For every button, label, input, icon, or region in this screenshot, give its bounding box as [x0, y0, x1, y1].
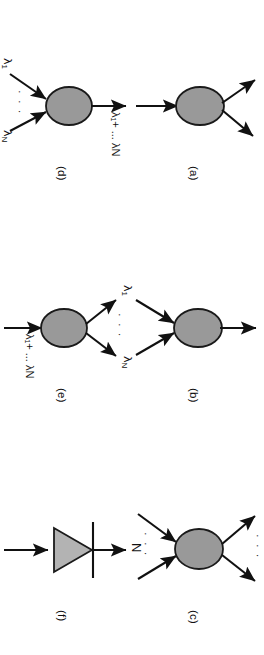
panel-d-input-label-first: λ1	[0, 58, 14, 69]
figure-canvas: (a) (b)	[0, 0, 264, 655]
panel-f-caption: (f)	[56, 610, 68, 621]
panel-c-blob	[175, 529, 223, 569]
panel-a-output-line-2	[222, 110, 253, 136]
panel-f-triangle	[54, 528, 92, 572]
panel-a-output-line-1	[222, 80, 255, 103]
panel-e-caption: (e)	[56, 388, 68, 403]
panel-grid: (a) (b)	[0, 0, 264, 655]
panel-d-input-label-last: λN	[0, 130, 14, 142]
panel-b: (b)	[134, 228, 262, 428]
panel-e-output-ellipsis: · · ·	[114, 313, 126, 338]
panel-e: · · · λ₁+ ... λN λ1 λN (e)	[2, 228, 130, 428]
panel-b-blob	[174, 309, 222, 347]
lambda-subscript: N	[0, 137, 9, 143]
panel-b-input-line-2	[136, 333, 174, 355]
panel-e-output-label-last: λN	[120, 356, 134, 368]
panel-c-multiplicity-label: N	[129, 543, 144, 552]
lambda-subscript: 1	[120, 292, 129, 296]
panel-e-output-line-1	[86, 300, 116, 324]
panel-a-caption: (a)	[188, 166, 200, 181]
panel-c: · · · · · · N (c)	[134, 450, 262, 650]
panel-b-input-line-1	[136, 300, 174, 323]
panel-c-output-ellipsis: · · ·	[252, 534, 264, 559]
panel-d-blob	[46, 87, 92, 125]
panel-e-input-label: λ₁+ ... λN	[24, 334, 36, 378]
panel-e-output-label-first: λ1	[120, 285, 134, 296]
lambda-subscript: N	[120, 363, 129, 369]
panel-c-output-line-1	[222, 516, 255, 544]
lambda-subscript: 1	[0, 65, 9, 69]
panel-d-caption: (d)	[56, 166, 68, 181]
panel-a-blob	[176, 87, 224, 125]
panel-a: (a)	[134, 6, 262, 206]
panel-c-input-line-n	[138, 556, 176, 579]
panel-d: · · · λ1 λN λ₁+ ... λN (d)	[2, 6, 130, 206]
panel-f: (f)	[2, 450, 130, 650]
panel-e-blob	[41, 309, 87, 347]
panel-b-caption: (b)	[188, 388, 200, 403]
panel-c-output-line-n	[222, 555, 255, 581]
panel-d-input-ellipsis: · · ·	[14, 90, 26, 115]
panel-d-output-label: λ₁+ ... λN	[110, 112, 122, 156]
panel-e-output-line-n	[86, 333, 116, 356]
panel-c-caption: (c)	[188, 610, 200, 624]
